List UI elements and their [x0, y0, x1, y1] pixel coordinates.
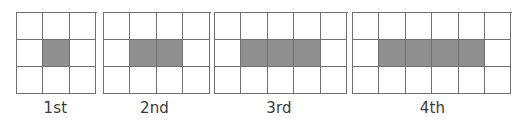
- shaded-cell: [459, 40, 485, 67]
- shaded-cell: [379, 40, 405, 67]
- grid-cell: [241, 13, 267, 40]
- grid-cell: [268, 67, 294, 94]
- shaded-cell: [130, 40, 156, 67]
- figure-4th: 4th: [352, 12, 513, 124]
- grid-cell: [294, 13, 320, 40]
- grid-cell: [157, 13, 183, 40]
- shaded-cell: [406, 40, 432, 67]
- grid-cell: [241, 67, 267, 94]
- grid-cell: [268, 13, 294, 40]
- grid-cell: [183, 67, 209, 94]
- grid-cell: [379, 67, 405, 94]
- grid-cell: [130, 13, 156, 40]
- grid-cell: [17, 13, 43, 40]
- shaded-cell: [43, 40, 69, 67]
- shaded-cell: [157, 40, 183, 67]
- grid-cell: [215, 67, 241, 94]
- grid-1st: [16, 12, 97, 94]
- grid-cell: [183, 13, 209, 40]
- grid-2nd: [103, 12, 211, 94]
- grid-cell: [321, 67, 347, 94]
- grid-cell: [157, 67, 183, 94]
- grid-cell: [485, 13, 511, 40]
- shaded-cell: [432, 40, 458, 67]
- figure-1st: 1st: [16, 12, 95, 124]
- figure-2nd: 2nd: [103, 12, 206, 124]
- figure-label-2nd: 2nd: [103, 99, 206, 117]
- grid-cell: [485, 40, 511, 67]
- grid-3rd: [214, 12, 348, 94]
- grid-cell: [130, 67, 156, 94]
- grid-cell: [432, 67, 458, 94]
- shaded-cell: [268, 40, 294, 67]
- grid-cell: [70, 40, 96, 67]
- grid-cell: [379, 13, 405, 40]
- grid-cell: [406, 67, 432, 94]
- grid-cell: [353, 40, 379, 67]
- grid-cell: [321, 40, 347, 67]
- grid-cell: [17, 67, 43, 94]
- shaded-cell: [241, 40, 267, 67]
- grid-cell: [294, 67, 320, 94]
- grid-cell: [459, 13, 485, 40]
- grid-cell: [43, 13, 69, 40]
- grid-cell: [353, 13, 379, 40]
- grid-cell: [215, 40, 241, 67]
- grid-cell: [353, 67, 379, 94]
- figure-3rd: 3rd: [214, 12, 344, 124]
- grid-cell: [459, 67, 485, 94]
- shaded-cell: [294, 40, 320, 67]
- figure-label-3rd: 3rd: [214, 99, 344, 117]
- figure-label-1st: 1st: [16, 99, 95, 117]
- grid-cell: [432, 13, 458, 40]
- grid-cell: [406, 13, 432, 40]
- grid-cell: [321, 13, 347, 40]
- grid-cell: [104, 40, 130, 67]
- grid-cell: [485, 67, 511, 94]
- grid-cell: [70, 67, 96, 94]
- grid-cell: [104, 13, 130, 40]
- grid-cell: [43, 67, 69, 94]
- grid-cell: [183, 40, 209, 67]
- grid-cell: [17, 40, 43, 67]
- grid-cell: [215, 13, 241, 40]
- figure-label-4th: 4th: [352, 99, 513, 117]
- grid-cell: [70, 13, 96, 40]
- grid-4th: [352, 12, 512, 94]
- grid-cell: [104, 67, 130, 94]
